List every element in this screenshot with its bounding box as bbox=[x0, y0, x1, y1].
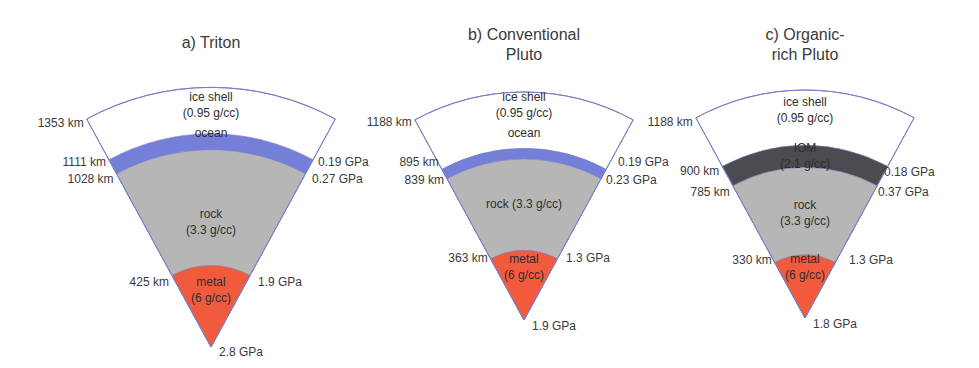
radius-label: 1111 km bbox=[63, 155, 106, 169]
pressure-label: 0.18 GPa bbox=[884, 165, 935, 179]
layer-label-iom: IOM bbox=[794, 141, 817, 155]
radius-label: 1188 km bbox=[367, 115, 412, 129]
pressure-label: 0.37 GPa bbox=[878, 185, 929, 199]
layer-label-metal: (6 g/cc) bbox=[504, 268, 544, 282]
panel-triton: a) Tritonice shell(0.95 g/cc)oceanrock(3… bbox=[38, 34, 369, 359]
layer-label-ice: ice shell bbox=[783, 95, 826, 109]
interior-structure-figure: a) Tritonice shell(0.95 g/cc)oceanrock(3… bbox=[0, 0, 979, 368]
layer-label-ice: (0.95 g/cc) bbox=[183, 106, 240, 120]
layer-label-metal: (6 g/cc) bbox=[785, 268, 825, 282]
layer-label-ice: (0.95 g/cc) bbox=[496, 106, 553, 120]
panel-title: b) Conventional bbox=[468, 26, 580, 43]
pressure-label: 2.8 GPa bbox=[219, 345, 263, 359]
layer-label-ice: (0.95 g/cc) bbox=[777, 111, 834, 125]
layer-label-rock: rock bbox=[794, 198, 818, 212]
pressure-label: 1.8 GPa bbox=[813, 317, 857, 331]
radius-label: 330 km bbox=[732, 253, 771, 267]
panel-title: Pluto bbox=[506, 46, 543, 63]
radius-label: 1353 km bbox=[38, 116, 84, 130]
layer-label-metal: (6 g/cc) bbox=[191, 291, 231, 305]
layer-label-metal: metal bbox=[509, 252, 538, 266]
pressure-label: 0.27 GPa bbox=[312, 172, 363, 186]
layer-label-ice: ice shell bbox=[189, 90, 232, 104]
radius-label: 785 km bbox=[691, 185, 730, 199]
pressure-label: 1.3 GPa bbox=[566, 251, 610, 265]
pressure-label: 1.9 GPa bbox=[532, 319, 576, 333]
layer-label-ocean: ocean bbox=[508, 126, 541, 140]
radius-label: 1188 km bbox=[648, 115, 693, 129]
layer-label-metal: metal bbox=[790, 252, 819, 266]
pressure-label: 0.19 GPa bbox=[318, 155, 369, 169]
layer-label-ice: ice shell bbox=[502, 90, 545, 104]
layer-label-rock: (3.3 g/cc) bbox=[780, 214, 830, 228]
pressure-label: 0.23 GPa bbox=[606, 173, 657, 187]
layer-label-iom: (2.1 g/cc) bbox=[780, 157, 830, 171]
layer-label-ocean: ocean bbox=[195, 126, 228, 140]
panel-title: a) Triton bbox=[182, 34, 241, 51]
radius-label: 1028 km bbox=[68, 172, 114, 186]
radius-label: 839 km bbox=[405, 173, 444, 187]
pressure-label: 1.3 GPa bbox=[849, 253, 893, 267]
layer-label-metal: metal bbox=[196, 275, 225, 289]
pressure-label: 1.9 GPa bbox=[258, 275, 302, 289]
panel-organic-rich-pluto: c) Organic-rich Plutoice shell(0.95 g/cc… bbox=[648, 26, 935, 331]
radius-label: 363 km bbox=[448, 251, 487, 265]
panel-title: c) Organic- bbox=[765, 26, 844, 43]
layer-label-rock: rock bbox=[200, 207, 224, 221]
radius-label: 900 km bbox=[680, 164, 719, 178]
radius-label: 895 km bbox=[399, 155, 438, 169]
panel-title: rich Pluto bbox=[772, 46, 839, 63]
radius-label: 425 km bbox=[130, 275, 169, 289]
pressure-label: 0.19 GPa bbox=[618, 155, 669, 169]
layer-label-rock: (3.3 g/cc) bbox=[186, 223, 236, 237]
layer-label-rock: rock (3.3 g/cc) bbox=[486, 197, 562, 211]
panel-conventional-pluto: b) ConventionalPlutoice shell(0.95 g/cc)… bbox=[367, 26, 669, 333]
